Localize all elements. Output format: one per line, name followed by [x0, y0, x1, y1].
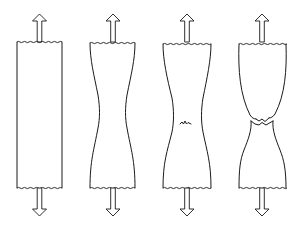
load-arrow-up-icon	[33, 14, 47, 42]
specimen-4-fracture	[239, 14, 287, 216]
specimen-1-uniform	[17, 14, 62, 216]
specimen-3-crack	[163, 14, 211, 216]
crack-icon	[180, 121, 191, 124]
load-arrow-down-icon	[106, 188, 120, 216]
load-arrow-up-icon	[106, 14, 120, 42]
load-arrow-up-icon	[180, 14, 194, 42]
fracture-surface-upper	[256, 118, 269, 122]
load-arrow-down-icon	[33, 188, 47, 216]
load-arrow-down-icon	[180, 188, 194, 216]
tensile-test-diagram: Stages of tensile specimen deformation t…	[0, 0, 302, 231]
fracture-surface-lower	[251, 121, 273, 125]
load-arrow-down-icon	[255, 188, 269, 216]
load-arrow-up-icon	[255, 14, 269, 42]
specimen-2-necking	[90, 14, 135, 216]
